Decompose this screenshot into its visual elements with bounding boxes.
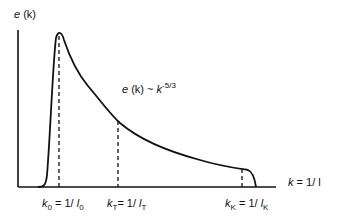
ann-sim: ~ <box>147 83 153 95</box>
l-sub: K <box>263 203 268 212</box>
x-rhs: = 1/ l <box>297 176 321 188</box>
eq: = 1/ <box>239 197 258 209</box>
marker-label-kK: kK = 1/ lK <box>225 198 268 212</box>
marker-label-k0: k0 = 1/ l0 <box>42 198 84 212</box>
l-sub: T <box>142 203 147 212</box>
k-sub: K <box>231 203 236 212</box>
x-k: k <box>288 176 294 188</box>
eq: = 1/ <box>55 197 74 209</box>
ann-e: e <box>122 83 128 95</box>
y-arg: (k) <box>23 8 36 20</box>
x-axis-label: k = 1/ l <box>288 177 321 188</box>
ann-arg: (k) <box>131 83 144 95</box>
y-axis-label: e (k) <box>14 9 36 20</box>
scaling-annotation: e (k) ~ k-5/3 <box>122 82 176 95</box>
ann-exponent: -5/3 <box>162 81 176 90</box>
y-var: e <box>14 8 20 20</box>
energy-curve <box>38 33 256 187</box>
l-sub: 0 <box>79 203 83 212</box>
marker-label-kT: kT= 1/ lT <box>107 198 146 212</box>
eq: = 1/ <box>117 197 136 209</box>
k-sub: 0 <box>48 203 52 212</box>
